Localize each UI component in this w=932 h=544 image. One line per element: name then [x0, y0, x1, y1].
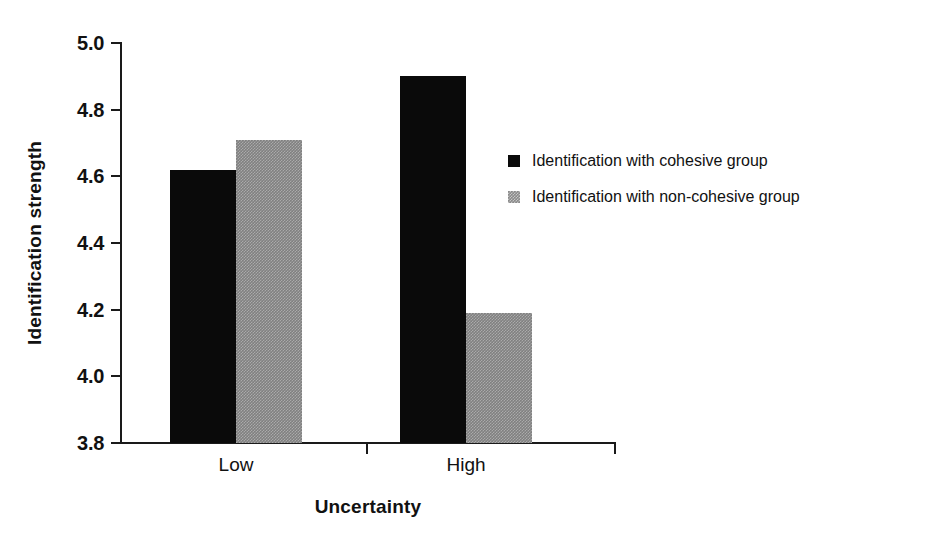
y-axis-tick: [111, 175, 120, 177]
legend-item-label: Identification with non-cohesive group: [532, 189, 800, 205]
x-axis-tick-end: [614, 444, 616, 454]
x-axis-title: Uncertainty: [0, 496, 736, 518]
y-axis-line: [120, 42, 122, 444]
y-axis-title: Identification strength: [24, 123, 46, 363]
x-axis-category-label: Low: [176, 455, 296, 474]
bar-high-series-0: [400, 76, 466, 443]
x-axis-category-label: High: [406, 455, 526, 474]
bar-low-series-1: [236, 140, 302, 443]
chart-legend: Identification with cohesive groupIdenti…: [508, 143, 800, 215]
chart-page: 5.04.84.64.44.24.03.8 LowHigh Identifica…: [0, 0, 932, 544]
y-axis-tick-label: 4.6: [46, 166, 104, 186]
y-axis-tick-label: 5.0: [46, 33, 104, 53]
legend-item-label: Identification with cohesive group: [532, 153, 768, 169]
legend-item: Identification with cohesive group: [508, 143, 800, 179]
x-axis-tick-middle: [366, 444, 368, 454]
y-axis-tick: [111, 442, 120, 444]
y-axis-tick-label: 4.8: [46, 100, 104, 120]
black-square-swatch: [508, 155, 520, 167]
legend-item: Identification with non-cohesive group: [508, 179, 800, 215]
y-axis-tick-label: 4.4: [46, 233, 104, 253]
y-axis-tick: [111, 242, 120, 244]
y-axis-tick: [111, 375, 120, 377]
y-axis-tick: [111, 309, 120, 311]
gray-square-swatch: [508, 191, 520, 203]
y-axis-tick-label: 4.0: [46, 366, 104, 386]
y-axis-tick-label: 3.8: [46, 433, 104, 453]
bar-high-series-1: [466, 313, 532, 443]
y-axis-tick: [111, 109, 120, 111]
y-axis-tick-label: 4.2: [46, 300, 104, 320]
y-axis-tick: [111, 42, 120, 44]
bar-low-series-0: [170, 170, 236, 443]
bar-chart-plot: 5.04.84.64.44.24.03.8 LowHigh Identifica…: [0, 0, 932, 544]
